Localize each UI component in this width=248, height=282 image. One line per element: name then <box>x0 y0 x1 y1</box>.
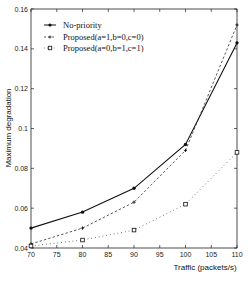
filled-dot-marker-icon <box>48 23 51 26</box>
y-tick-label: 0.12 <box>14 85 28 92</box>
data-point <box>81 226 84 229</box>
x-tick-label: 100 <box>180 251 192 258</box>
x-tick-label: 95 <box>156 251 164 258</box>
svg-text:Proposed(a=0,b=1,c=1): Proposed(a=0,b=1,c=1) <box>63 43 144 53</box>
series-proposed-a-1-b-0-c-0- <box>29 23 238 245</box>
data-point <box>235 23 238 26</box>
data-point <box>132 187 135 190</box>
legend: No-priority Proposed(a=1,b=0,c=0) Propos… <box>44 20 144 53</box>
y-tick-label: 0.06 <box>14 205 28 212</box>
x-axis-label: Traffic (packets/s) <box>173 263 236 272</box>
data-point <box>81 238 85 242</box>
x-tick-label: 110 <box>231 251 242 258</box>
legend-item-proposed-a1: Proposed(a=1,b=0,c=0) <box>44 32 144 42</box>
legend-item-proposed-a0: Proposed(a=0,b=1,c=1) <box>44 43 144 53</box>
y-tick-label: 0.04 <box>14 245 28 252</box>
x-tick-label: 90 <box>130 251 138 258</box>
series-proposed-a-0-b-1-c-1- <box>29 151 239 248</box>
series-layer <box>29 23 239 247</box>
y-tick-label: 0.14 <box>14 45 28 52</box>
x-tick-label: 70 <box>27 251 35 258</box>
legend-item-no-priority: No-priority <box>44 20 102 30</box>
x-tick-label: 85 <box>104 251 112 258</box>
data-point <box>235 41 238 44</box>
data-point <box>132 228 136 232</box>
x-tick-label: 75 <box>53 251 61 258</box>
data-point <box>81 210 84 213</box>
y-tick-label: 0.16 <box>14 6 28 13</box>
data-point <box>184 149 187 152</box>
x-tick-label: 105 <box>205 251 217 258</box>
line-chart: 0.040.060.080.10.120.140.16 707580859095… <box>0 0 248 282</box>
data-point <box>184 143 187 146</box>
data-point <box>184 202 188 206</box>
svg-text:Proposed(a=1,b=0,c=0): Proposed(a=1,b=0,c=0) <box>63 32 144 42</box>
square-marker-icon <box>48 46 51 49</box>
y-tick-label: 0.08 <box>14 165 28 172</box>
y-tick-label: 0.1 <box>18 125 28 132</box>
plus-marker-icon <box>49 36 52 39</box>
svg-text:No-priority: No-priority <box>63 20 102 30</box>
data-point <box>29 226 32 229</box>
y-axis-label: Maximum degradation <box>4 88 13 167</box>
data-point <box>235 151 239 155</box>
data-point <box>29 244 33 248</box>
x-tick-label: 80 <box>79 251 87 258</box>
